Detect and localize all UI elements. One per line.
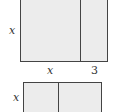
bottom-rectangle	[23, 82, 102, 112]
bottom-rectangle-height-label: x	[13, 92, 19, 103]
top-rectangle	[20, 0, 108, 62]
top-rectangle-width-label-x: x	[47, 65, 53, 76]
top-rectangle-divider	[80, 0, 81, 61]
top-rectangle-width-label-3: 3	[91, 65, 98, 76]
top-rectangle-height-label: x	[9, 25, 15, 36]
bottom-rectangle-divider	[58, 83, 59, 112]
